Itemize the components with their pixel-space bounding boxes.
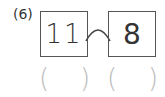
answer-blank-1-close: ) bbox=[80, 63, 90, 93]
answer-blank-2-open: ( bbox=[107, 63, 117, 93]
answer-blank-1-open: ( bbox=[39, 63, 49, 93]
problem-number: (6) bbox=[13, 6, 33, 22]
left-number-box: 11 bbox=[40, 11, 88, 57]
answer-blank-2-close: ) bbox=[148, 63, 158, 93]
right-number-box: 8 bbox=[108, 11, 156, 57]
